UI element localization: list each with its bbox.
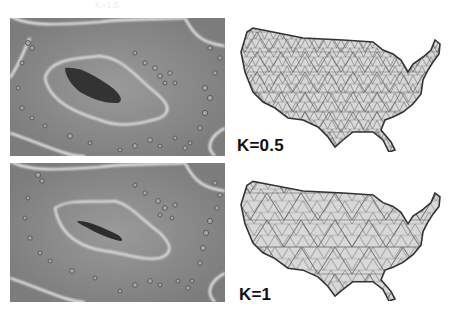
- distance-field-panel-k05: [10, 18, 225, 156]
- faint-show-through-text: K=1.5: [95, 0, 119, 10]
- k-value-label: K=0.5: [237, 136, 284, 156]
- distance-field-image: [10, 18, 225, 156]
- k-value-label: K=1: [239, 285, 271, 305]
- us-map-mesh: [233, 166, 445, 301]
- distance-field-panel-k1: [10, 163, 225, 302]
- distance-field-image: [10, 163, 225, 302]
- triangle-mesh-panel-k05: [233, 12, 445, 152]
- triangle-mesh-panel-k1: [233, 166, 445, 301]
- us-map-mesh: [233, 12, 445, 152]
